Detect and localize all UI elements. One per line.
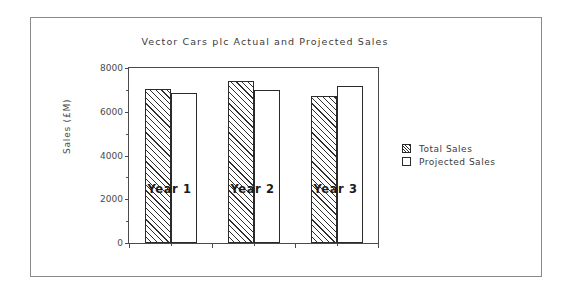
x-axis-group-label: Year 1 [147,182,191,196]
x-axis-tick [212,243,213,248]
y-axis-tick-label: 4000 [100,151,123,161]
legend-label: Projected Sales [419,157,495,167]
legend-item-total-sales: Total Sales [402,142,495,155]
y-axis-tick [125,199,129,200]
x-axis-tick [129,243,130,248]
bar-total-sales [145,89,171,243]
x-axis-minor-tick [254,243,255,246]
legend-item-projected-sales: Projected Sales [402,155,495,168]
plot-inner: 02000400060008000 [129,68,378,243]
plot-area: 02000400060008000 [128,67,379,244]
y-axis-tick-label: 0 [117,238,123,248]
y-axis-tick-label: 6000 [100,107,123,117]
legend-swatch-empty-icon [402,157,411,166]
y-axis-tick [125,112,129,113]
legend-swatch-hatched-icon [402,144,411,153]
x-axis-group-label: Year 3 [313,182,357,196]
y-axis-label: Sales (£M) [62,99,72,154]
y-axis-tick-label: 8000 [100,63,123,73]
bar-total-sales [311,96,337,243]
y-axis-tick [125,156,129,157]
chart-title: Vector Cars plc Actual and Projected Sal… [120,36,410,47]
y-axis-tick-label: 2000 [100,194,123,204]
bar-projected-sales [254,90,280,243]
y-axis-minor-tick [126,90,129,91]
chart-figure: Vector Cars plc Actual and Projected Sal… [0,0,569,298]
y-axis-tick [125,68,129,69]
x-axis-minor-tick [337,243,338,246]
chart-legend: Total Sales Projected Sales [402,142,495,168]
x-axis-minor-tick [171,243,172,246]
y-axis-minor-tick [126,221,129,222]
y-axis-minor-tick [126,177,129,178]
legend-label: Total Sales [419,144,472,154]
x-axis-group-label: Year 2 [230,182,274,196]
bar-projected-sales [171,93,197,243]
bar-total-sales [228,81,254,243]
x-axis-tick [378,243,379,248]
x-axis-tick [295,243,296,248]
bar-projected-sales [337,86,363,243]
y-axis-minor-tick [126,134,129,135]
